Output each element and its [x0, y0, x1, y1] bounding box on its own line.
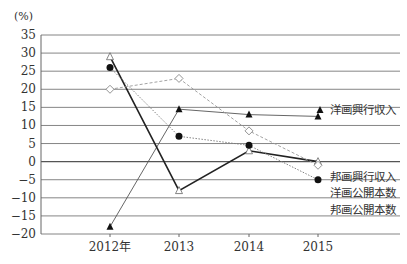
triangle-marker-icon [107, 223, 114, 230]
legend-label: 邦画興行収入 [330, 170, 397, 184]
y-tick-label: 0 [28, 155, 36, 169]
y-tick-label: −5 [18, 173, 36, 187]
series-line [110, 109, 318, 227]
y-tick-label: 5 [28, 137, 36, 151]
y-tick-label: 15 [21, 100, 36, 114]
chart-container: 35302520151050−5−10−15−202012年2013201420… [0, 0, 407, 264]
y-tick-label: −15 [11, 209, 36, 223]
legend-label: 洋画興行収入 [330, 103, 397, 117]
y-tick-label: 10 [21, 118, 36, 132]
diamond-marker-icon [245, 127, 253, 135]
y-tick-label: 20 [21, 82, 36, 96]
series-line [110, 57, 318, 191]
x-tick-label: 2014 [234, 240, 265, 254]
legend-label: 洋画公開本数 [330, 186, 397, 200]
y-tick-label: −10 [11, 191, 36, 205]
x-tick-label: 2013 [164, 240, 195, 254]
circle-marker-icon [107, 64, 114, 71]
y-tick-label: −20 [11, 227, 36, 241]
diamond-marker-icon [175, 74, 183, 82]
circle-marker-icon [176, 133, 183, 140]
x-tick-label: 2012年 [89, 240, 132, 254]
open-triangle-marker-icon [107, 53, 114, 60]
y-tick-label: 25 [21, 64, 36, 78]
legend-label: 邦画公開本数 [330, 203, 397, 217]
diamond-marker-icon [106, 85, 114, 93]
series-line [110, 78, 318, 165]
y-tick-label: 30 [21, 46, 36, 60]
line-chart: 35302520151050−5−10−15−202012年2013201420… [0, 0, 407, 264]
circle-marker-icon [246, 142, 253, 149]
triangle-marker-icon [176, 105, 183, 112]
y-axis-unit-label: (%) [14, 10, 33, 23]
x-tick-label: 2015 [303, 240, 334, 254]
circle-marker-icon [315, 176, 322, 183]
y-tick-label: 35 [21, 28, 36, 42]
